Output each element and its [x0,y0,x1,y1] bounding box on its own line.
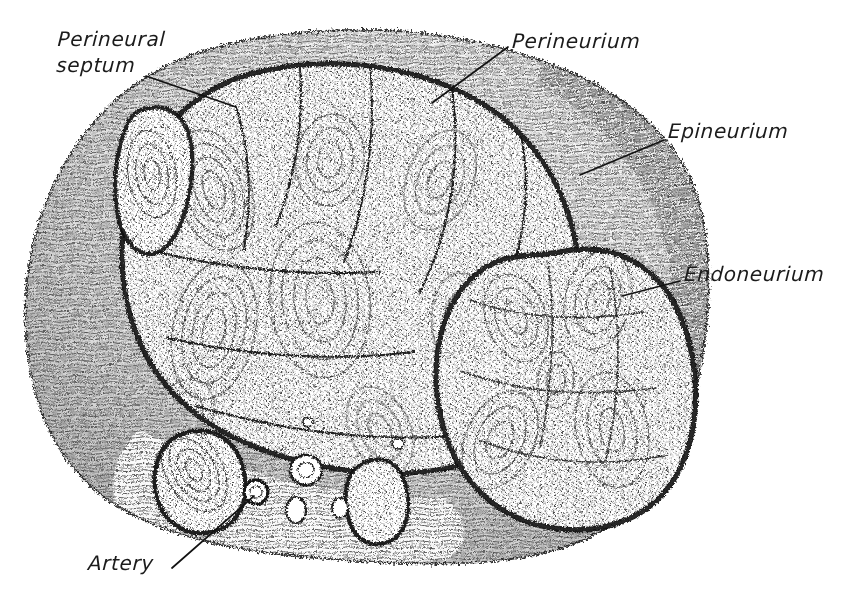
fascicle-lower-middle [346,459,409,544]
artery-vessel [244,480,268,504]
histology-plate [0,0,853,600]
nerve-cross-section-figure: Perineural septum Perineurium Epineurium… [0,0,853,600]
